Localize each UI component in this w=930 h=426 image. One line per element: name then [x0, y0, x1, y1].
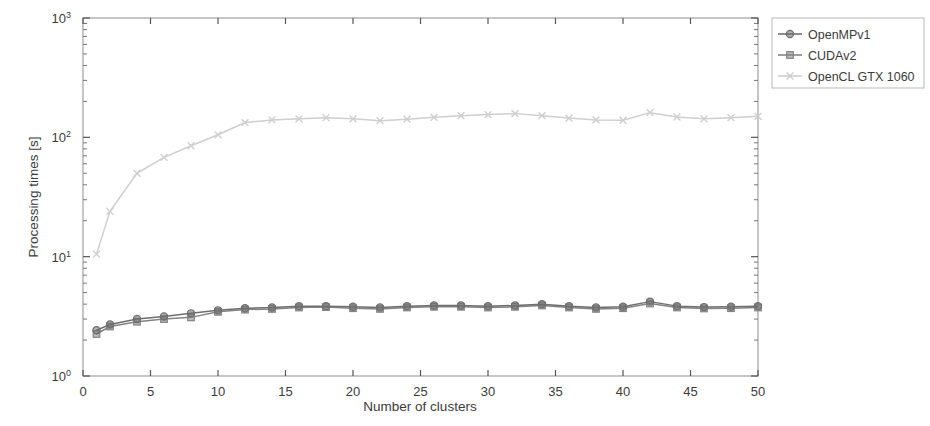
- data-point-marker: [160, 313, 167, 320]
- data-point-marker: [700, 303, 707, 310]
- y-axis-ticks: 100101102103: [52, 10, 758, 384]
- chart-canvas: 100101102103 05101520253035404550 OpenMP…: [0, 0, 930, 426]
- data-point-marker: [787, 52, 794, 59]
- series-opencl-gtx-1060: [93, 109, 761, 257]
- data-point-marker: [322, 303, 329, 310]
- data-point-marker: [295, 303, 302, 310]
- data-point-marker: [133, 315, 140, 322]
- data-point-marker: [430, 302, 437, 309]
- x-tick-label: 5: [147, 384, 154, 399]
- x-tick-label: 40: [616, 384, 630, 399]
- axes-frame: [83, 18, 758, 376]
- data-point-marker: [484, 303, 491, 310]
- x-tick-label: 10: [211, 384, 225, 399]
- data-point-marker: [646, 298, 653, 305]
- data-point-marker: [106, 321, 113, 328]
- data-point-marker: [592, 304, 599, 311]
- data-point-marker: [268, 304, 275, 311]
- x-tick-label: 35: [548, 384, 562, 399]
- legend-label: CUDAv2: [808, 49, 856, 63]
- series-line: [97, 113, 759, 254]
- data-point-marker: [93, 327, 100, 334]
- x-tick-label: 30: [481, 384, 495, 399]
- x-tick-label: 15: [278, 384, 292, 399]
- x-axis-label: Number of clusters: [363, 399, 477, 414]
- x-tick-label: 50: [751, 384, 765, 399]
- data-point-marker: [188, 142, 195, 149]
- series-openmpv1: [93, 298, 762, 334]
- y-tick-label: 102: [52, 129, 71, 145]
- data-point-marker: [673, 303, 680, 310]
- series-line: [97, 304, 759, 334]
- data-point-marker: [457, 302, 464, 309]
- x-tick-label: 25: [413, 384, 427, 399]
- data-point-marker: [403, 303, 410, 310]
- y-tick-label: 100: [52, 368, 71, 384]
- data-point-marker: [161, 154, 168, 161]
- data-point-marker: [619, 303, 626, 310]
- y-tick-label: 103: [52, 10, 71, 26]
- data-point-marker: [538, 301, 545, 308]
- data-point-marker: [349, 303, 356, 310]
- chart-figure: 100101102103 05101520253035404550 OpenMP…: [0, 0, 930, 426]
- x-axis-ticks: 05101520253035404550: [79, 18, 765, 399]
- data-point-marker: [786, 30, 793, 37]
- data-point-marker: [187, 310, 194, 317]
- data-point-marker: [214, 307, 221, 314]
- data-series-layer: [93, 109, 762, 337]
- data-point-marker: [241, 305, 248, 312]
- data-point-marker: [754, 303, 761, 310]
- data-point-marker: [511, 302, 518, 309]
- x-tick-label: 45: [683, 384, 697, 399]
- data-point-marker: [215, 131, 222, 138]
- legend: OpenMPv1CUDAv2OpenCL GTX 1060: [772, 18, 924, 88]
- legend-label: OpenCL GTX 1060: [808, 70, 915, 84]
- y-tick-label: 101: [52, 249, 71, 265]
- data-point-marker: [376, 304, 383, 311]
- data-point-marker: [134, 170, 141, 177]
- x-tick-label: 20: [346, 384, 360, 399]
- legend-label: OpenMPv1: [808, 28, 871, 42]
- data-point-marker: [565, 303, 572, 310]
- y-axis-label: Processing times [s]: [26, 137, 41, 258]
- x-tick-label: 0: [79, 384, 86, 399]
- data-point-marker: [727, 303, 734, 310]
